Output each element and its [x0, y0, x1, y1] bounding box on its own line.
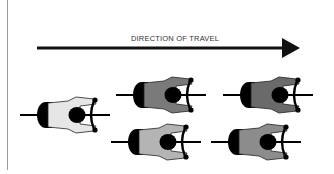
cyclist-icon [223, 77, 313, 113]
cyclist-icon [211, 124, 301, 160]
cyclist-group [20, 77, 313, 160]
cyclist-icon [116, 77, 206, 113]
diagram-canvas [0, 0, 334, 174]
cyclist-icon [111, 124, 201, 160]
cyclist-icon [20, 97, 110, 133]
direction-arrow [37, 38, 300, 58]
